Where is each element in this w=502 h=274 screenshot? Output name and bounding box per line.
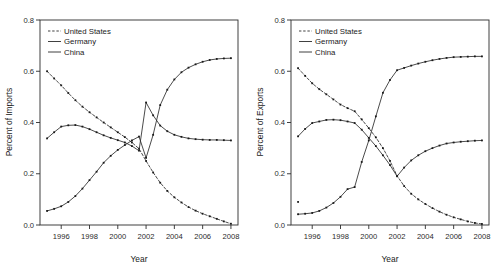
data-point-marker (460, 141, 462, 143)
imports-legend: United StatesGermanyChina (48, 27, 111, 57)
series-line-germany (298, 120, 482, 177)
imports-y-axis: 0.00.20.40.60.8 (23, 16, 40, 230)
data-point-marker (195, 138, 197, 140)
data-point-marker (467, 56, 469, 58)
exports-series-group (297, 55, 483, 224)
data-point-marker (96, 171, 98, 173)
data-point-marker (96, 131, 98, 133)
data-point-marker (110, 126, 112, 128)
data-point-marker (325, 93, 327, 95)
data-point-marker (474, 140, 476, 142)
data-point-marker (410, 160, 412, 162)
data-point-marker (446, 57, 448, 59)
y-tick-label: 0.4 (274, 118, 285, 127)
x-tick-label: 2008 (222, 232, 239, 241)
data-point-marker (131, 140, 133, 142)
x-tick-label: 2006 (445, 232, 462, 241)
data-point-marker (74, 124, 76, 126)
data-point-marker (333, 202, 335, 204)
data-point-marker (230, 57, 232, 59)
data-point-marker (432, 59, 434, 61)
legend-label-united-states: United States (315, 27, 362, 36)
data-point-marker (304, 75, 306, 77)
data-point-marker (124, 136, 126, 138)
x-tick-label: 2000 (109, 232, 126, 241)
data-point-marker (145, 157, 147, 159)
legend-label-germany: Germany (315, 37, 347, 46)
data-point-marker (354, 186, 356, 188)
series-line-united-states (298, 68, 482, 224)
data-point-marker (230, 140, 232, 142)
x-tick-label: 2008 (473, 232, 490, 241)
x-tick-label: 1996 (53, 232, 70, 241)
data-point-marker (152, 134, 154, 136)
data-point-marker (67, 201, 69, 203)
x-tick-label: 2000 (360, 232, 377, 241)
data-point-marker (173, 134, 175, 136)
data-point-marker (439, 211, 441, 213)
data-point-marker (340, 119, 342, 121)
data-point-marker (375, 136, 377, 138)
data-point-marker (467, 140, 469, 142)
data-point-marker (103, 134, 105, 136)
data-point-marker (166, 190, 168, 192)
data-point-marker (166, 130, 168, 132)
data-point-marker (209, 139, 211, 141)
data-point-marker (173, 196, 175, 198)
chart-panel-imports: 0.00.20.40.60.8 199619982000200220042006… (0, 0, 251, 274)
data-point-marker (89, 111, 91, 113)
data-point-marker (110, 155, 112, 157)
x-tick-label: 1996 (304, 232, 321, 241)
y-tick-label: 0.0 (274, 221, 285, 230)
data-point-marker (82, 106, 84, 108)
y-tick-label: 0.6 (23, 67, 34, 76)
data-point-marker (361, 129, 363, 131)
data-point-marker (74, 99, 76, 101)
imports-chart-svg: 0.00.20.40.60.8 199619982000200220042006… (0, 0, 251, 274)
exports-x-axis: 1996199820002002200420062008 (304, 225, 491, 241)
data-point-marker (325, 207, 327, 209)
data-point-marker (403, 67, 405, 69)
data-point-marker (347, 188, 349, 190)
data-point-marker (410, 193, 412, 195)
data-point-marker (124, 142, 126, 144)
data-point-marker (403, 167, 405, 169)
data-point-marker (46, 137, 48, 139)
data-point-marker (131, 142, 133, 144)
data-point-marker (152, 114, 154, 116)
data-point-marker (230, 223, 232, 225)
data-point-marker (117, 149, 119, 151)
data-point-marker (340, 196, 342, 198)
data-point-marker (375, 145, 377, 147)
data-point-marker (145, 102, 147, 104)
data-point-marker (152, 172, 154, 174)
data-point-marker (223, 58, 225, 60)
data-point-marker (297, 67, 299, 69)
data-point-marker (82, 188, 84, 190)
data-point-marker (396, 175, 398, 177)
data-point-marker (410, 65, 412, 67)
data-point-marker (117, 139, 119, 141)
imports-x-axis-title: Year (131, 254, 148, 264)
data-point-marker (138, 150, 140, 152)
series-line-germany (47, 103, 231, 151)
annotation-point-marker (297, 201, 299, 203)
legend-label-china: China (315, 48, 336, 57)
data-point-marker (138, 136, 140, 138)
data-point-marker (424, 61, 426, 63)
data-point-marker (60, 205, 62, 207)
data-point-marker (403, 185, 405, 187)
series-line-china (47, 58, 231, 211)
data-point-marker (424, 203, 426, 205)
data-point-marker (347, 107, 349, 109)
data-point-marker (74, 195, 76, 197)
exports-legend: United StatesGermanyChina (299, 27, 362, 57)
data-point-marker (216, 218, 218, 220)
data-point-marker (96, 116, 98, 118)
data-point-marker (340, 104, 342, 106)
data-point-marker (188, 137, 190, 139)
data-point-marker (311, 122, 313, 124)
data-point-marker (188, 67, 190, 69)
data-point-marker (382, 92, 384, 94)
data-point-marker (103, 122, 105, 124)
